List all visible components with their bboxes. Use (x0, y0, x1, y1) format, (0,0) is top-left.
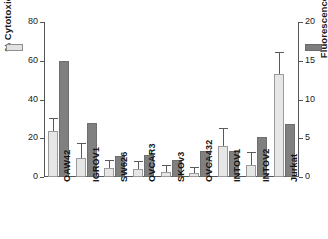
category-label-jurkat: Jurkat (289, 154, 299, 182)
bar-cytotoxicity (246, 165, 256, 177)
legend-swatch-fluorescence-index (305, 44, 322, 51)
error-bar-cap (247, 152, 256, 153)
error-bar-cap (219, 128, 228, 129)
error-bar-cap (190, 167, 199, 168)
y-axis-left-title: % Cytotoxicity (2, 0, 13, 68)
y-axis-right-title: Fluorescence Index (318, 0, 328, 68)
bar-cytotoxicity (274, 74, 284, 177)
ticklabel-right-0: 0 (305, 172, 310, 181)
ticklabel-right-20: 20 (305, 17, 315, 26)
tick-left-0 (40, 177, 44, 178)
ticklabel-right-5: 5 (305, 133, 310, 142)
ticklabel-left-20: 20 (28, 133, 38, 142)
ticklabel-left-80: 80 (28, 17, 38, 26)
error-bar-whisker (81, 144, 82, 158)
error-bar-whisker (138, 162, 139, 170)
bar-cytotoxicity (133, 169, 143, 177)
error-bar-whisker (251, 153, 252, 166)
chart-figure: % Cytotoxicity Fluorescence Index 020406… (0, 0, 328, 239)
ticklabel-right-15: 15 (305, 56, 315, 65)
tick-right-15 (299, 61, 303, 62)
category-label-skov3: SKOv3 (176, 151, 186, 182)
ticklabel-left-60: 60 (28, 56, 38, 65)
category-label-igrov1: IGROV1 (91, 147, 101, 182)
error-bar-cap (105, 160, 114, 161)
error-bar-cap (49, 118, 58, 119)
category-label-oaw42: OAW42 (62, 149, 72, 182)
error-bar-cap (162, 165, 171, 166)
error-bar-whisker (166, 166, 167, 172)
error-bar-cap (77, 143, 86, 144)
bar-cytotoxicity (218, 146, 228, 177)
tick-right-5 (299, 138, 303, 139)
error-bar-whisker (223, 129, 224, 146)
error-bar-whisker (109, 161, 110, 169)
error-bar-whisker (53, 119, 54, 131)
error-bar-whisker (194, 168, 195, 173)
error-bar-cap (134, 161, 143, 162)
bar-cytotoxicity (48, 131, 58, 178)
tick-right-10 (299, 100, 303, 101)
category-label-sw626: SW626 (119, 151, 129, 182)
category-label-ovca432: OVCA432 (204, 140, 214, 182)
error-bar-whisker (279, 53, 280, 74)
error-bar-cap (275, 52, 284, 53)
tick-right-20 (299, 22, 303, 23)
category-label-intov2: INTOV2 (261, 148, 271, 182)
bar-cytotoxicity (161, 172, 171, 177)
ticklabel-left-0: 0 (33, 172, 38, 181)
ticklabel-left-40: 40 (28, 95, 38, 104)
legend-swatch-cytotoxicity (6, 44, 23, 51)
tick-right-0 (299, 177, 303, 178)
bar-cytotoxicity (104, 168, 114, 177)
bar-cytotoxicity (76, 158, 86, 177)
bar-cytotoxicity (189, 173, 199, 177)
category-label-ovcar3: OVCAR3 (147, 143, 157, 182)
category-label-intov1: INTOV1 (232, 148, 242, 182)
ticklabel-right-10: 10 (305, 95, 315, 104)
